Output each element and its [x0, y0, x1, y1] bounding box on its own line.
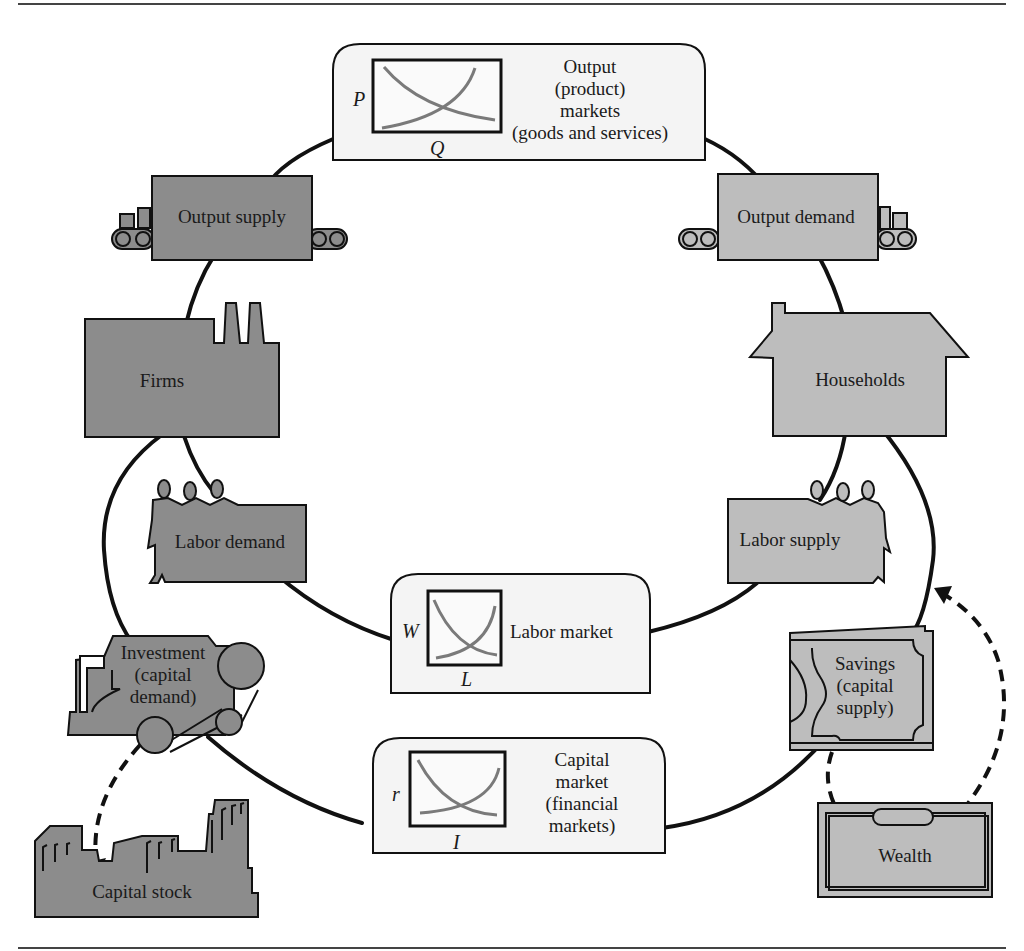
capital-stock-node: Capital stock	[35, 800, 258, 917]
capital-market-label-3: (financial	[546, 793, 619, 815]
output-market-x-axis: Q	[430, 137, 445, 159]
investment-label-1: Investment	[121, 642, 206, 663]
savings-node: Savings (capital supply)	[790, 626, 933, 750]
capital-market-label-4: markets)	[549, 815, 615, 837]
output-market-y-axis: P	[352, 88, 365, 110]
output-market-label-4: (goods and services)	[512, 122, 668, 144]
connector-output-supply-to-firms	[186, 254, 215, 324]
connector-labor-market-to-labor-supply	[648, 583, 757, 632]
output-market-box: P Q Output (product) markets (goods and …	[333, 44, 705, 160]
output-market-label-2: (product)	[555, 78, 626, 100]
output-market-label-3: markets	[560, 100, 620, 121]
output-market-label-1: Output	[564, 56, 618, 77]
output-supply-label: Output supply	[178, 206, 287, 227]
labor-market-y-axis: W	[402, 620, 421, 642]
labor-supply-node: Labor supply	[728, 481, 890, 583]
savings-label-2: (capital	[837, 675, 894, 697]
investment-node: Investment (capital demand)	[68, 636, 264, 753]
output-supply-node: Output supply	[112, 176, 347, 260]
labor-market-box: W L Labor market	[391, 574, 650, 693]
households-label: Households	[815, 369, 905, 390]
connector-households-to-savings	[881, 428, 934, 636]
output-demand-label: Output demand	[737, 206, 855, 227]
capital-market-label-2: market	[556, 771, 609, 792]
labor-demand-label: Labor demand	[175, 531, 286, 552]
capital-market-x-axis: I	[452, 831, 461, 853]
capital-market-y-axis: r	[392, 783, 400, 805]
connector-capital-market-to-savings	[662, 738, 826, 828]
arrow-head-savings	[934, 586, 952, 604]
wealth-node: Wealth	[818, 803, 992, 897]
dashed-savings-to-wealth	[828, 752, 836, 808]
labor-market-x-axis: L	[460, 668, 472, 690]
firms-label: Firms	[140, 370, 184, 391]
connector-output-demand-to-households	[817, 253, 845, 322]
capital-stock-label: Capital stock	[92, 881, 192, 902]
households-node: Households	[750, 303, 968, 436]
capital-market-label-1: Capital	[555, 749, 610, 770]
investment-label-3: demand)	[130, 686, 196, 708]
wealth-label: Wealth	[878, 845, 932, 866]
connector-labor-demand-to-labor-market	[277, 575, 394, 640]
dashed-wealth-to-savings	[945, 595, 1004, 811]
investment-label-2: (capital	[135, 664, 192, 686]
output-demand-node: Output demand	[679, 174, 916, 260]
circular-flow-diagram: P Q Output (product) markets (goods and …	[0, 0, 1024, 951]
labor-supply-label: Labor supply	[740, 529, 841, 550]
capital-market-box: r I Capital market (financial markets)	[373, 738, 665, 853]
savings-label-1: Savings	[835, 653, 895, 674]
output-market-chart	[373, 60, 501, 132]
savings-label-3: supply)	[837, 697, 894, 719]
labor-demand-node: Labor demand	[148, 480, 306, 583]
firms-node: Firms	[85, 303, 279, 437]
labor-market-label: Labor market	[510, 621, 614, 642]
